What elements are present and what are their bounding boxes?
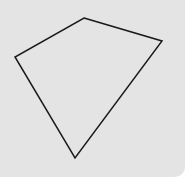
quadrilateral-shape xyxy=(15,18,162,158)
diagram-canvas xyxy=(0,0,185,177)
quadrilateral-figure xyxy=(0,0,185,177)
